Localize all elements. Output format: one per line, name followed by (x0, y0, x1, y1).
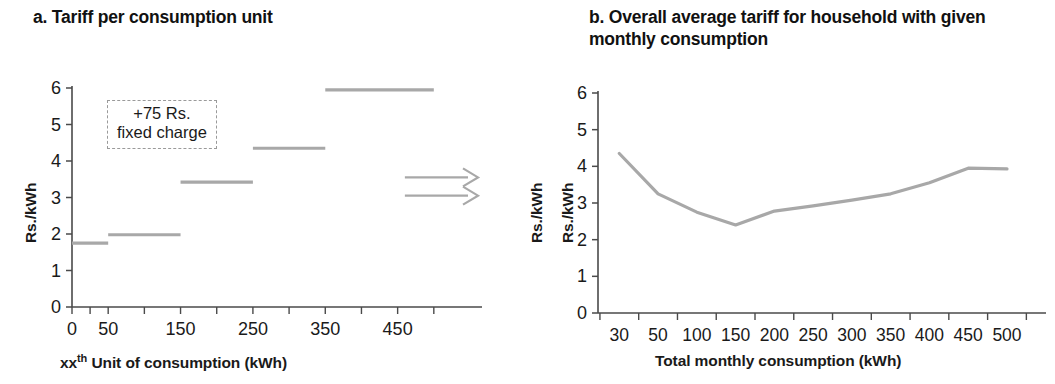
panel-b-y-tick-label: 2 (577, 230, 587, 250)
panel-a-x-axis-label: xxth Unit of consumption (kWh) (60, 352, 287, 372)
x-label-superscript: th (77, 352, 87, 364)
panel-b-y-tick-label: 3 (577, 193, 587, 213)
panel-b-y-tick-label: 0 (577, 303, 587, 323)
panel-b-x-tick-label: 100 (682, 325, 711, 345)
panel-a-x-tick-label: 150 (166, 319, 196, 339)
panel-b-plot: 65432103050100150200250300350400450500 (540, 0, 1055, 384)
panel-b-y-tick-label: 5 (577, 120, 587, 140)
panel-b-average-tariff-line (619, 154, 1007, 226)
panel-a-x-tick-label: 350 (310, 319, 340, 339)
fixed-charge-annotation: +75 Rs. fixed charge (107, 100, 217, 149)
panel-b-y-tick-label: 6 (577, 83, 587, 103)
panel-b-x-tick-label: 500 (992, 325, 1021, 345)
panel-b-x-tick-label: 50 (648, 325, 668, 345)
panel-a-x-tick-label: 0 (67, 319, 77, 339)
panel-b-y-tick-label: 1 (577, 266, 587, 286)
panel-b-x-tick-label: 350 (876, 325, 905, 345)
panel-b-x-tick-label: 250 (799, 325, 828, 345)
panel-a-y-tick-label: 1 (51, 261, 61, 281)
panel-a-y-tick-label: 4 (51, 151, 61, 171)
panel-a-plot: 6543210050150250350450 (0, 0, 540, 384)
panel-a: a. Tariff per consumption unit 654321005… (0, 0, 540, 384)
panel-b-y-tick-label: 4 (577, 156, 587, 176)
panel-b-x-tick-label: 450 (954, 325, 983, 345)
panel-b-x-tick-label: 400 (915, 325, 944, 345)
panel-b-x-tick-label: 30 (610, 325, 630, 345)
panel-a-y-tick-label: 3 (51, 188, 61, 208)
panel-b-x-tick-label: 150 (721, 325, 750, 345)
panel-a-y-tick-label: 0 (51, 297, 61, 317)
panel-b: b. Overall average tariff for household … (540, 0, 1055, 384)
panel-a-x-tick-label: 450 (383, 319, 413, 339)
figure-root: a. Tariff per consumption unit 654321005… (0, 0, 1055, 384)
x-label-rest: Unit of consumption (kWh) (87, 354, 287, 371)
panel-a-y-axis-label: Rs./kWh (22, 183, 40, 243)
panel-b-y-axis-label: Rs./kWh (559, 183, 577, 243)
panel-a-x-tick-label: 250 (238, 319, 268, 339)
panel-b-x-axis-label: Total monthly consumption (kWh) (655, 352, 901, 370)
panel-b-x-tick-label: 300 (837, 325, 866, 345)
panel-a-y-tick-label: 2 (51, 224, 61, 244)
panel-a-y-tick-label: 5 (51, 115, 61, 135)
panel-b-x-tick-label: 200 (760, 325, 789, 345)
panel-a-x-tick-label: 50 (98, 319, 118, 339)
panel-a-y-tick-label: 6 (51, 78, 61, 98)
x-label-prefix: xx (60, 354, 77, 371)
